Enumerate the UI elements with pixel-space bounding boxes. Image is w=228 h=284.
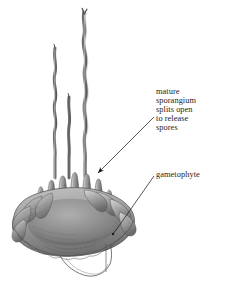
annotation-line: sporangium — [156, 96, 196, 105]
seta-center — [68, 94, 70, 178]
illustration-canvas — [0, 0, 228, 284]
seta-group — [54, 8, 88, 178]
annotation-gametophyte: gametophyte — [156, 170, 200, 179]
gametophyte-thallus — [12, 188, 136, 277]
annotation-line: splits open — [156, 105, 196, 114]
seta-left — [54, 44, 57, 178]
annotation-line: mature — [156, 87, 196, 96]
annotation-mature-sporangium: mature sporangium splits open to release… — [156, 87, 196, 132]
seta-right-tall — [82, 8, 88, 176]
annotation-line: gametophyte — [156, 170, 200, 179]
leader-line-sporangium — [98, 117, 154, 173]
annotation-line: to release — [156, 114, 196, 123]
annotation-line: spores — [156, 123, 196, 132]
botanical-figure: mature sporangium splits open to release… — [0, 0, 228, 284]
leader-dot-gametophyte — [112, 233, 115, 236]
